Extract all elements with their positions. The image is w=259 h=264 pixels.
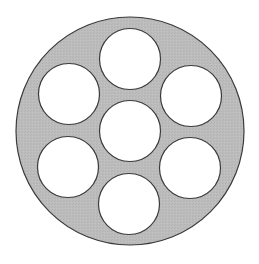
hole-top [100,29,161,90]
perforated-disc-diagram [0,0,259,264]
hole-lower-left [38,137,99,198]
hole-upper-left [39,64,100,125]
hole-lower-right [160,138,221,199]
hole-center [100,101,161,162]
hole-bottom [99,174,160,235]
diagram-canvas [0,0,259,264]
hole-upper-right [161,66,222,127]
